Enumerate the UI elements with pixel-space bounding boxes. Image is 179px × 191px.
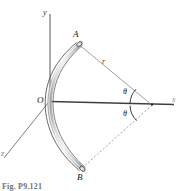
origin-label: O xyxy=(37,96,44,105)
axis-y-label: y xyxy=(43,9,47,17)
axis-x-line xyxy=(50,102,174,105)
point-a-label: A xyxy=(73,30,79,39)
radius-line-upper xyxy=(77,43,152,105)
figure-container: y x z A B O r θ θ Fig. P9.121 xyxy=(0,0,179,191)
radius-label: r xyxy=(102,58,105,66)
axis-x-label: x xyxy=(172,96,176,104)
angle-arc-lower xyxy=(130,106,137,121)
axis-z-label: z xyxy=(1,150,4,158)
radius-line-lower xyxy=(80,105,152,170)
axis-z-line xyxy=(4,101,50,159)
angle-theta-upper-label: θ xyxy=(123,88,127,96)
point-b-label: B xyxy=(77,173,83,182)
angle-theta-lower-label: θ xyxy=(123,110,127,118)
figure-drawing xyxy=(0,0,179,191)
apex-point-marker xyxy=(151,103,153,105)
figure-caption: Fig. P9.121 xyxy=(2,182,42,191)
